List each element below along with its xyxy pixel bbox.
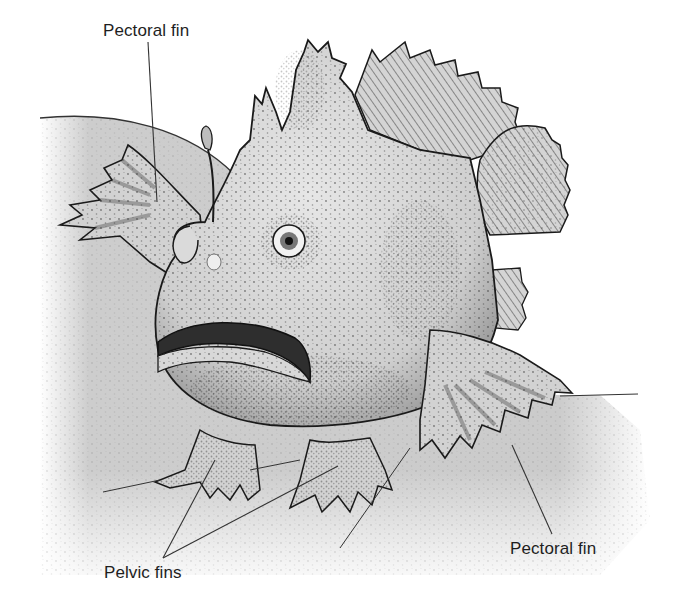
frogfish-diagram: Pectoral fin Pectoral fin Pelvic fins bbox=[0, 0, 676, 613]
label-pectoral-fin-bottom: Pectoral fin bbox=[510, 539, 596, 559]
label-pelvic-fins: Pelvic fins bbox=[104, 563, 182, 583]
label-pectoral-fin-top: Pectoral fin bbox=[103, 21, 189, 41]
illustration bbox=[0, 0, 676, 613]
eye bbox=[261, 214, 321, 270]
